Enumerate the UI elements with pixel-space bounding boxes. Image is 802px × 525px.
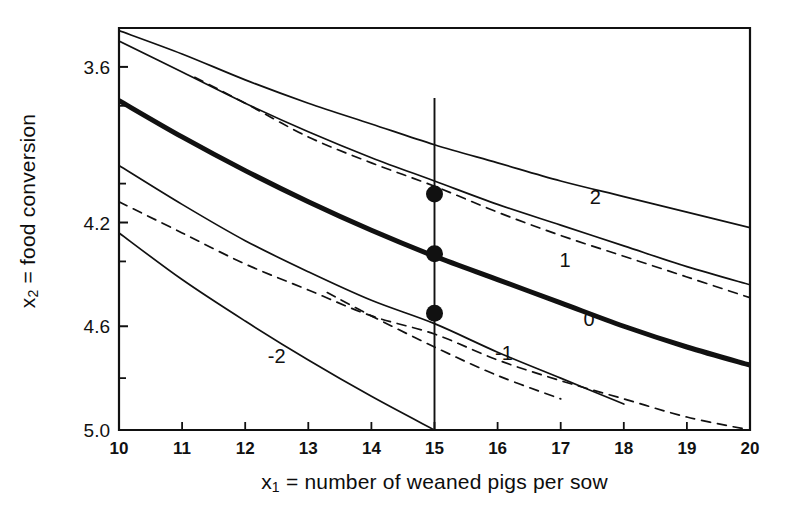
contour-minus-2	[119, 233, 435, 430]
x-tick-label: 18	[614, 439, 633, 458]
intersection-contour-minus-1	[426, 305, 443, 322]
y-tick-label: 4.2	[84, 213, 110, 234]
y-tick-label: 5.0	[84, 420, 110, 441]
contour-plot-figure: x2 = food conversion x1 = number of wean…	[0, 0, 802, 525]
contour-minus-1	[119, 165, 624, 404]
contour-1-label: 1	[560, 249, 571, 271]
contour-minus-1-label: -1	[495, 342, 513, 364]
plot-canvas: 210-1-2 10111213141516171819203.64.24.65…	[0, 0, 802, 525]
x-tick-label: 20	[741, 439, 760, 458]
x-tick-label: 19	[677, 439, 696, 458]
x-tick-label: 13	[299, 439, 318, 458]
x-tick-label: 15	[425, 439, 444, 458]
x-tick-label: 11	[173, 439, 191, 458]
contour-minus-2-label: -2	[268, 345, 286, 367]
intersection-contour-0	[426, 245, 443, 262]
y-tick-label: 3.6	[84, 57, 110, 78]
x-tick-label: 16	[488, 439, 507, 458]
x-tick-label: 17	[551, 439, 570, 458]
x-tick-label: 10	[110, 439, 129, 458]
contour-2-label: 2	[590, 186, 601, 208]
x-tick-label: 14	[362, 439, 381, 458]
contour-0-label: 0	[584, 308, 595, 330]
intersection-contour-1	[426, 185, 443, 202]
x-tick-label: 12	[236, 439, 255, 458]
y-tick-label: 4.6	[84, 316, 110, 337]
contour-minus-2-dashed	[327, 293, 560, 399]
